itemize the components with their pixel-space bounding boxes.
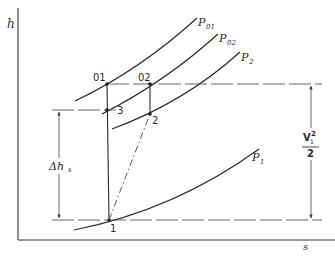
state-label-1: 1 — [110, 223, 116, 234]
point-3 — [105, 108, 109, 112]
label-p2: P 2 — [240, 51, 254, 66]
svg-text:Δh: Δh — [48, 160, 64, 173]
state-label-3: 3 — [117, 105, 123, 116]
isobar-p01 — [75, 18, 197, 101]
point-01 — [105, 82, 109, 86]
svg-text:02: 02 — [227, 39, 236, 47]
svg-text:P: P — [240, 51, 249, 64]
svg-text:P: P — [197, 16, 206, 29]
svg-text:P: P — [251, 151, 260, 164]
isobar-p02 — [102, 34, 218, 114]
label-p1: P 1 — [251, 151, 264, 166]
svg-text:2: 2 — [311, 130, 316, 138]
h-axis-label: h — [7, 17, 15, 31]
svg-text:1: 1 — [260, 158, 264, 166]
svg-text:s: s — [68, 166, 72, 174]
svg-text:01: 01 — [206, 23, 215, 31]
svg-text:P: P — [218, 32, 227, 45]
actual-process-line — [109, 114, 150, 220]
point-1 — [107, 218, 110, 221]
s-axis-label: s — [303, 241, 308, 252]
isobar-p1 — [74, 149, 259, 230]
hs-diagram: h s P 01 P 02 P 2 P 1 01 02 3 2 1 Δh — [0, 0, 335, 258]
svg-text:2: 2 — [248, 58, 254, 66]
svg-text:2: 2 — [307, 148, 314, 159]
state-label-01: 01 — [93, 72, 106, 83]
state-label-2: 2 — [152, 115, 158, 126]
svg-text:1: 1 — [310, 138, 314, 145]
label-p01: P 01 — [197, 16, 215, 31]
isobar-p2 — [112, 52, 240, 129]
state-label-02: 02 — [138, 72, 151, 83]
isentropic-line-1-01 — [107, 84, 109, 220]
label-p02: P 02 — [218, 32, 236, 47]
